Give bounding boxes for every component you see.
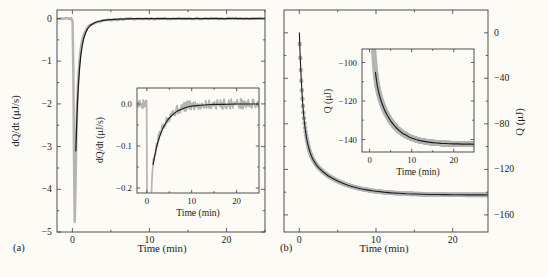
panel-a-xtick-label: 0 bbox=[70, 234, 75, 245]
panel-b-ytick-label: −80 bbox=[494, 118, 509, 129]
panel-a-xtick-label: 20 bbox=[222, 234, 232, 245]
panel-a-ytick-label: −4 bbox=[42, 183, 53, 194]
inset-b-ytick-label: −100 bbox=[339, 58, 358, 68]
inset-a-ytick-label: 0.0 bbox=[121, 99, 133, 109]
panel-b-ytick-label: −120 bbox=[494, 163, 514, 174]
inset-a-ytick-label: −0.1 bbox=[116, 141, 132, 151]
calorimetry-figure: 010200−1−2−3−4−5Time (min)dQ/dt (μJ/s)01… bbox=[0, 0, 548, 277]
inset-b-xtick-label: 10 bbox=[407, 155, 416, 165]
inset-a-xtick-label: 20 bbox=[232, 196, 241, 206]
chart-inset-b: 01020−100−120−140Time (min)Q (μJ) bbox=[322, 0, 478, 178]
inset-b-xlabel: Time (min) bbox=[396, 166, 440, 178]
figure-canvas: 010200−1−2−3−4−5Time (min)dQ/dt (μJ/s)01… bbox=[0, 0, 548, 277]
panel-b-xlabel: Time (min) bbox=[359, 242, 408, 255]
inset-b-ytick-label: −120 bbox=[339, 96, 358, 106]
panel-a-label: (a) bbox=[13, 242, 25, 253]
inset-b-ytick-label: −140 bbox=[339, 135, 358, 145]
inset-a-xlabel: Time (min) bbox=[176, 207, 220, 219]
panel-a-ytick-label: −3 bbox=[42, 141, 53, 152]
panel-a-ytick-label: −5 bbox=[42, 226, 53, 237]
inset-b-xtick-label: 0 bbox=[367, 155, 372, 165]
inset-a-ylabel: dQ/dt (μJ/s) bbox=[94, 117, 106, 163]
chart-inset-a: 010200.0−0.1−0.2Time (min)dQ/dt (μJ/s) bbox=[94, 88, 259, 226]
panel-a-xlabel: Time (min) bbox=[137, 242, 186, 255]
panel-b-xtick-label: 20 bbox=[448, 234, 458, 245]
panel-b-ytick-label: −40 bbox=[494, 72, 509, 83]
inset-a-xtick-label: 0 bbox=[145, 196, 150, 206]
inset-a-xtick-label: 10 bbox=[187, 196, 196, 206]
panel-b-ytick-label: −160 bbox=[494, 209, 514, 220]
panel-a-ytick-label: 0 bbox=[47, 13, 52, 24]
inset-a-ytick-label: −0.2 bbox=[116, 183, 132, 193]
panel-a-ylabel: dQ/dt (μJ/s) bbox=[9, 95, 22, 147]
panel-a-ytick-label: −1 bbox=[42, 55, 53, 66]
panel-a-ytick-label: −2 bbox=[42, 98, 53, 109]
inset-b-xtick-label: 20 bbox=[449, 155, 458, 165]
panel-b-xtick-label: 0 bbox=[297, 234, 302, 245]
panel-b-ytick-label: 0 bbox=[494, 27, 499, 38]
panel-b-ylabel: Q (μJ) bbox=[513, 108, 526, 136]
panel-b-label: (b) bbox=[280, 242, 292, 253]
inset-b-ylabel: Q (μJ) bbox=[322, 89, 334, 114]
